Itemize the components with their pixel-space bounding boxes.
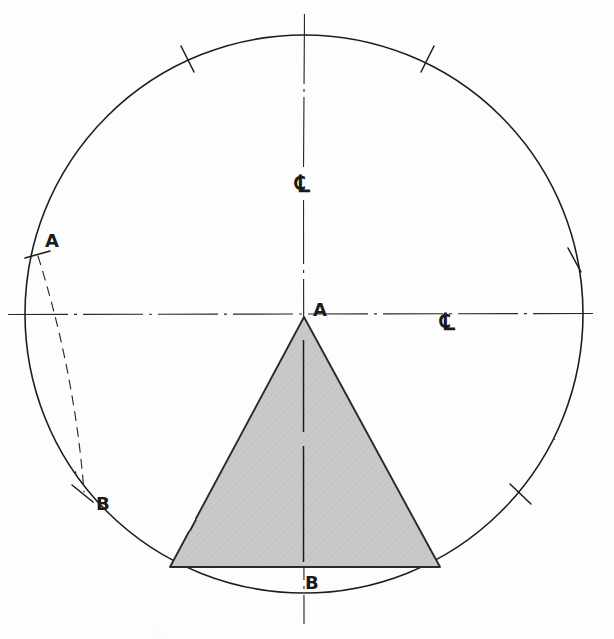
apex-label-a: A: [313, 299, 327, 320]
base-label-b: B: [305, 572, 319, 593]
arc-label-b: B: [96, 493, 110, 514]
centerline-symbol-horizontal: ℄: [439, 308, 456, 335]
figure-caption: Fig. 1: [150, 626, 179, 638]
engineering-sketch: ℄ ℄ A B A B: [0, 0, 614, 639]
sketch-page: ℄ ℄ A B A B Fig. 1: [0, 0, 614, 639]
arc-label-a: A: [45, 230, 59, 251]
centerline-symbol-vertical: ℄: [294, 170, 311, 197]
